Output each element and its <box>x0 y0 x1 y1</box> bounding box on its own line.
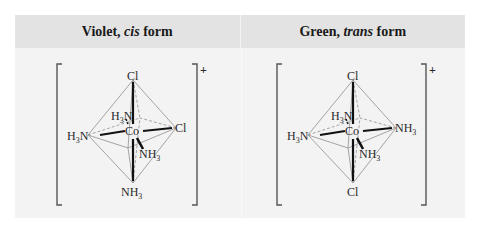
cis-complex: + Cl Co Cl <box>57 63 207 205</box>
right-bracket <box>192 64 197 205</box>
ligand-back: H3N <box>331 109 353 125</box>
ligand-bottom: Cl <box>347 185 359 199</box>
ligand-back: H3N <box>111 109 133 125</box>
ligand-right: Cl <box>175 121 187 135</box>
ligand-bottom: NH3 <box>121 185 142 201</box>
charge-label: + <box>429 63 436 77</box>
charge-label: + <box>200 63 207 77</box>
central-metal: Co <box>345 124 359 138</box>
ligand-top: Cl <box>347 69 359 83</box>
ligand-left: H3N <box>287 129 309 145</box>
ligand-front: NH3 <box>139 147 160 163</box>
ligand-top: Cl <box>127 69 139 83</box>
ligand-left: H3N <box>67 129 89 145</box>
left-bracket <box>277 64 282 205</box>
right-bracket <box>421 64 426 205</box>
trans-complex: + Cl Co NH3 H3N H3N <box>277 63 436 205</box>
octahedral-complex-diagrams: + Cl Co Cl <box>0 0 482 231</box>
left-bracket <box>57 64 62 205</box>
central-metal: Co <box>125 124 139 138</box>
ligand-right: NH3 <box>395 121 416 137</box>
ligand-front: NH3 <box>359 147 380 163</box>
